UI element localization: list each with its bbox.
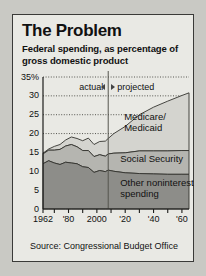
chart-graphic: The Problem Federal spending, as percent… <box>0 0 206 276</box>
x-axis-label: 2000 <box>81 215 113 224</box>
chart-card: The Problem Federal spending, as percent… <box>12 14 194 262</box>
actual-annotation: actual <box>73 82 103 93</box>
y-axis-label: 30 <box>13 91 39 100</box>
chart-source: Source: Congressional Budget Office <box>13 241 195 251</box>
y-axis-label: 25 <box>13 110 39 119</box>
y-axis-label: 15 <box>13 148 39 157</box>
projected-annotation: projected <box>117 82 154 93</box>
chart-plot-area: 05101520253035%1962'802000'20'40'60actua… <box>13 69 195 234</box>
x-axis-label: '40 <box>138 215 170 224</box>
band-label-other: Other noninterest spending <box>120 177 194 199</box>
y-axis-label: 0 <box>13 205 39 214</box>
chart-svg <box>13 69 195 234</box>
y-axis-label: 5 <box>13 186 39 195</box>
x-axis-label: '20 <box>109 215 141 224</box>
page-title: The Problem <box>22 21 122 40</box>
chart-subtitle: Federal spending, as percentage of gross… <box>22 43 192 66</box>
y-axis-label: 35% <box>13 73 39 82</box>
arrow-right-icon <box>111 84 115 90</box>
band-label-medicare: Medicare/​Medicaid <box>124 111 190 133</box>
x-axis-label: '80 <box>53 215 85 224</box>
arrow-left-icon <box>101 84 105 90</box>
y-axis-label: 10 <box>13 167 39 176</box>
y-axis-label: 20 <box>13 129 39 138</box>
x-axis-label: '60 <box>166 215 198 224</box>
band-label-social-security: Social Security <box>120 153 183 164</box>
